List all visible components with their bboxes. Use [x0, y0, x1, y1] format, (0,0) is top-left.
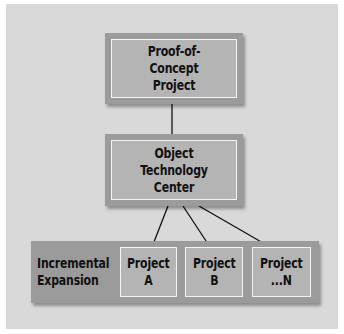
incremental-expansion-label-wrap: Incremental Expansion — [37, 251, 123, 293]
node-proof-of-concept-project: Proof-of-Concept Project — [105, 33, 243, 104]
node-label: Proof-of-Concept Project — [126, 43, 223, 94]
incremental-expansion-label: Incremental Expansion — [37, 255, 109, 289]
incremental-expansion-group: Incremental Expansion Project A Project … — [31, 241, 319, 303]
node-object-technology-center: Object Technology Center — [105, 134, 243, 206]
node-label: Project A — [127, 255, 170, 289]
node-project-n: Project ...N — [252, 247, 311, 297]
node-label: Project ...N — [260, 255, 303, 289]
node-label: Project B — [193, 255, 236, 289]
node-project-a: Project A — [120, 247, 177, 297]
node-project-b: Project B — [185, 247, 243, 297]
node-label: Object Technology Center — [126, 145, 223, 196]
